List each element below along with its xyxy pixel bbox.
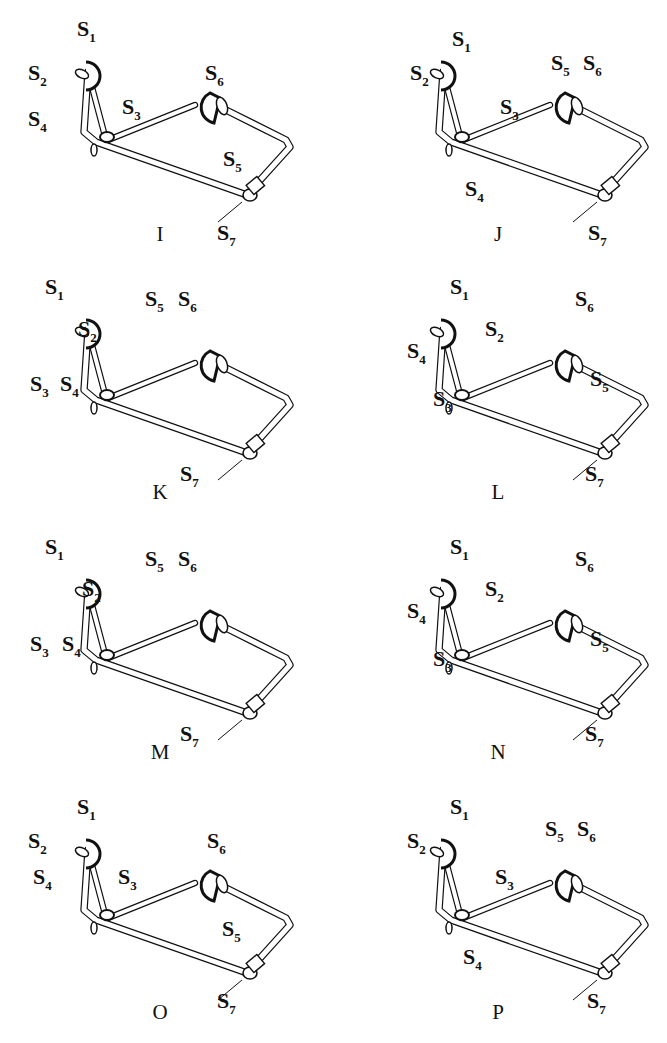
joint-label-s4: S4 [28, 108, 47, 134]
joint-label-s3: S3 [30, 633, 49, 659]
joint-label-s6: S6 [575, 288, 594, 314]
joint-label-s5: S5 [551, 52, 570, 78]
joint-label-s1: S1 [77, 796, 96, 822]
panel-l: S1S2S3S4S5S6S7L [333, 258, 666, 516]
linkage-drawing [333, 778, 666, 1036]
linkage-drawing [0, 0, 333, 258]
joint-label-s7: S7 [217, 222, 236, 248]
panel-i: S1S2S3S4S5S6S7I [0, 0, 333, 258]
joint-label-s4: S4 [465, 178, 484, 204]
joint-label-s2: S2 [82, 578, 101, 604]
joint-label-s2: S2 [485, 318, 504, 344]
joint-label-s2: S2 [78, 318, 97, 344]
joint-label-s4: S4 [407, 340, 426, 366]
panel-caption: M [151, 740, 170, 765]
joint-label-s5: S5 [145, 548, 164, 574]
joint-label-s7: S7 [587, 990, 606, 1016]
panel-p: S1S2S3S4S5S6S7P [333, 778, 666, 1036]
joint-label-s1: S1 [45, 276, 64, 302]
joint-label-s5: S5 [222, 918, 241, 944]
joint-label-s3: S3 [118, 866, 137, 892]
linkage-drawing [333, 0, 666, 258]
joint-label-s4: S4 [463, 946, 482, 972]
panel-caption: I [157, 222, 164, 247]
joint-label-s6: S6 [178, 288, 197, 314]
joint-label-s2: S2 [485, 578, 504, 604]
joint-label-s2: S2 [407, 830, 426, 856]
panel-k: S1S2S3S4S5S6S7K [0, 258, 333, 516]
joint-label-s1: S1 [77, 18, 96, 44]
joint-label-s5: S5 [545, 818, 564, 844]
joint-label-s7: S7 [585, 463, 604, 489]
panel-o: S1S2S3S4S5S6S7O [0, 778, 333, 1036]
joint-label-s2: S2 [410, 62, 429, 88]
joint-label-s3: S3 [122, 96, 141, 122]
linkage-drawing [0, 778, 333, 1036]
joint-label-s2: S2 [28, 830, 47, 856]
joint-label-s3: S3 [500, 96, 519, 122]
joint-label-s1: S1 [450, 796, 469, 822]
joint-label-s3: S3 [433, 388, 452, 414]
joint-label-s1: S1 [450, 536, 469, 562]
joint-label-s6: S6 [575, 548, 594, 574]
joint-label-s5: S5 [223, 148, 242, 174]
joint-label-s7: S7 [180, 723, 199, 749]
joint-label-s6: S6 [205, 62, 224, 88]
joint-label-s4: S4 [60, 373, 79, 399]
mechanism-figure: S1S2S3S4S5S6S7I [0, 0, 667, 1043]
linkage-drawing [333, 258, 666, 516]
joint-label-s6: S6 [583, 52, 602, 78]
joint-label-s5: S5 [145, 288, 164, 314]
joint-label-s7: S7 [588, 222, 607, 248]
joint-label-s7: S7 [180, 463, 199, 489]
panel-caption: N [490, 740, 505, 765]
joint-label-s1: S1 [452, 28, 471, 54]
panel-m: S1S2S3S4S5S6S7M [0, 518, 333, 776]
joint-label-s1: S1 [450, 276, 469, 302]
panel-caption: L [492, 480, 505, 505]
joint-label-s4: S4 [407, 600, 426, 626]
panel-caption: K [152, 480, 167, 505]
panel-j: S1S2S3S4S5S6S7J [333, 0, 666, 258]
joint-label-s3: S3 [30, 373, 49, 399]
joint-label-s5: S5 [590, 628, 609, 654]
panel-caption: J [494, 222, 502, 247]
joint-label-s6: S6 [577, 818, 596, 844]
panel-caption: O [152, 1000, 167, 1025]
panel-n: S1S2S3S4S5S6S7N [333, 518, 666, 776]
joint-label-s7: S7 [217, 990, 236, 1016]
joint-label-s3: S3 [433, 648, 452, 674]
linkage-drawing [333, 518, 666, 776]
joint-label-s3: S3 [495, 866, 514, 892]
joint-label-s7: S7 [585, 723, 604, 749]
joint-label-s6: S6 [207, 830, 226, 856]
joint-label-s1: S1 [45, 536, 64, 562]
joint-label-s4: S4 [33, 866, 52, 892]
joint-label-s6: S6 [178, 548, 197, 574]
joint-label-s4: S4 [62, 633, 81, 659]
joint-label-s2: S2 [28, 62, 47, 88]
panel-caption: P [492, 1000, 504, 1025]
joint-label-s5: S5 [590, 368, 609, 394]
